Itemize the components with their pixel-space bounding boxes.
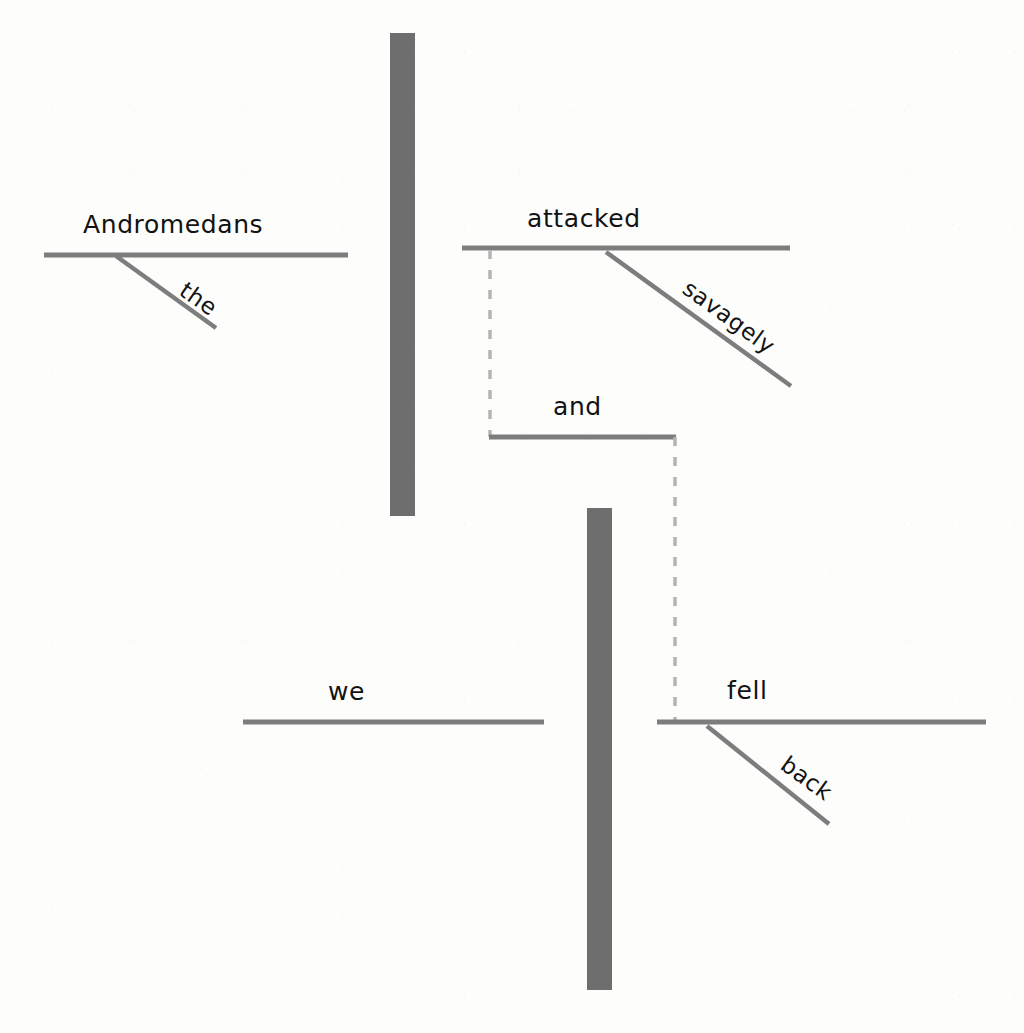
word-we: we <box>328 677 365 706</box>
sentence-diagram-canvas: Andromedans the attacked savagely and we… <box>0 0 1024 1033</box>
word-and: and <box>553 392 602 421</box>
modifier-slant-savagely <box>606 252 791 386</box>
subject-predicate-divider-bottom <box>587 508 612 990</box>
word-attacked: attacked <box>527 204 641 233</box>
diagram-lines <box>0 0 1024 1033</box>
word-fell: fell <box>727 676 767 705</box>
word-andromedans: Andromedans <box>83 210 263 239</box>
subject-predicate-divider-top <box>390 33 415 516</box>
